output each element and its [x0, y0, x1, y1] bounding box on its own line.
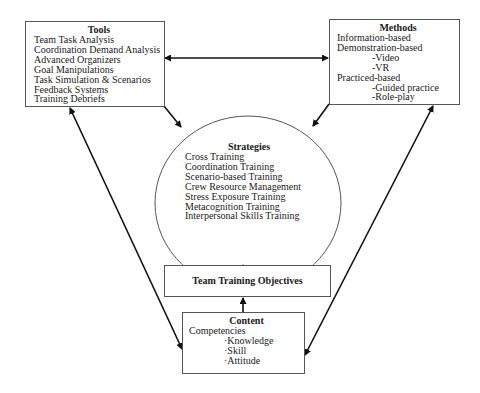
tools-box: Tools Team Task Analysis Coordination De… [25, 21, 165, 107]
team-training-objectives-box: Team Training Objectives [164, 265, 331, 297]
content-item: ·Knowledge [189, 336, 304, 346]
arrow-methods-strategies [313, 104, 329, 126]
methods-subitem: -Video [337, 53, 459, 63]
content-item: ·Attitude [189, 356, 304, 366]
strategies-item: Interpersonal Skills Training [185, 211, 325, 221]
methods-box: Methods Information-based Demonstration-… [329, 19, 460, 105]
arrow-tools-strategies [164, 106, 181, 127]
methods-subitem: -Role-play [337, 92, 459, 102]
arrow-tools-content [70, 108, 182, 349]
content-box: Content Competencies ·Knowledge ·Skill ·… [182, 312, 305, 374]
objectives-title: Team Training Objectives [192, 276, 302, 286]
tools-item: Training Debriefs [34, 94, 164, 104]
strategies-node: Strategies Cross Training Coordination T… [185, 142, 325, 221]
